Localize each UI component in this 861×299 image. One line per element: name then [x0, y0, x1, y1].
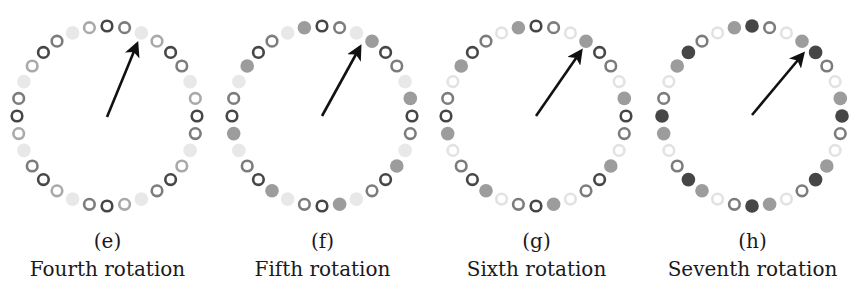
marker-faint-ring [496, 28, 507, 39]
marker-light-fill [17, 144, 31, 158]
marker-faint-ring [565, 194, 576, 205]
marker-dark-ring [467, 47, 478, 58]
marker-dark-fill [745, 199, 759, 213]
marker-dark-ring [380, 174, 391, 185]
marker-mid-fill [728, 21, 742, 35]
marker-light-fill [350, 192, 364, 206]
marker-dark-ring [594, 47, 605, 58]
marker-light-fill [232, 144, 246, 158]
marker-dark-ring [227, 111, 238, 122]
marker-mid-fill [333, 198, 347, 212]
marker-dark-ring [407, 111, 418, 122]
marker-faint-ring [614, 76, 625, 87]
marker-mid-ring [729, 199, 740, 210]
marker-light-fill [398, 75, 412, 89]
marker-light-fill [398, 144, 412, 158]
panel-g: (g) Sixth rotation [429, 0, 644, 299]
ring-diagram-h [645, 0, 860, 230]
marker-light-fill [183, 75, 197, 89]
marker-dark-ring [531, 201, 542, 212]
marker-mid-ring [177, 61, 188, 72]
marker-mid-ring [797, 186, 808, 197]
marker-faint-ring [614, 145, 625, 156]
ring-diagram-e [0, 0, 215, 230]
marker-light-fill [66, 26, 80, 40]
marker-faint-ring [830, 76, 841, 87]
marker-mid-ring [267, 36, 278, 47]
marker-light-fill [17, 75, 31, 89]
marker-faint-ring [781, 28, 792, 39]
marker-dark-ring [12, 111, 23, 122]
marker-mid-ring [672, 161, 683, 172]
marker-light-fill [281, 192, 295, 206]
marker-mid-fill [670, 59, 684, 73]
marker-mid-ring [152, 186, 163, 197]
marker-dark-ring [317, 21, 328, 32]
arrow-icon [752, 54, 803, 115]
marker-dark-ring [253, 174, 264, 185]
marker-mid-fill [795, 34, 809, 48]
marker-light-ring [84, 22, 95, 33]
marker-light-ring [152, 36, 163, 47]
marker-mid-fill [454, 59, 468, 73]
marker-mid-fill [763, 198, 777, 212]
marker-dark-ring [594, 174, 605, 185]
marker-light-ring [190, 93, 201, 104]
arrow-icon [536, 51, 581, 116]
marker-dark-fill [682, 46, 696, 60]
marker-light-ring [13, 128, 24, 139]
marker-dark-ring [102, 201, 113, 212]
marker-mid-ring [367, 186, 378, 197]
marker-mid-ring [190, 128, 201, 139]
marker-mid-fill [820, 159, 834, 173]
marker-mid-fill [265, 184, 279, 198]
marker-faint-ring [830, 145, 841, 156]
marker-dark-ring [165, 47, 176, 58]
marker-light-fill [350, 26, 364, 40]
marker-light-fill [281, 26, 295, 40]
marker-mid-ring [581, 186, 592, 197]
marker-faint-ring [448, 145, 459, 156]
marker-dark-fill [835, 109, 849, 123]
marker-faint-ring [664, 76, 675, 87]
marker-light-fill [66, 192, 80, 206]
panel-f: (f) Fifth rotation [215, 0, 430, 299]
marker-dark-ring [192, 111, 203, 122]
arrow-icon [107, 44, 137, 117]
marker-mid-fill [479, 184, 493, 198]
ring-diagram-g [429, 0, 644, 230]
caption-g: Sixth rotation [429, 257, 644, 281]
marker-dark-ring [380, 47, 391, 58]
marker-dark-ring [317, 201, 328, 212]
marker-mid-fill [227, 127, 241, 141]
marker-mid-fill [604, 159, 618, 173]
marker-light-fill [232, 75, 246, 89]
marker-mid-ring [52, 36, 63, 47]
marker-mid-ring [392, 61, 403, 72]
marker-mid-fill [404, 92, 418, 106]
marker-mid-fill [618, 92, 632, 106]
marker-faint-ring [565, 28, 576, 39]
marker-mid-ring [228, 93, 239, 104]
marker-dark-ring [441, 111, 452, 122]
marker-mid-ring [119, 22, 130, 33]
marker-dark-ring [38, 174, 49, 185]
panel-e: (e) Fourth rotation [0, 0, 215, 299]
ring-diagram-f [215, 0, 430, 230]
marker-mid-fill [298, 21, 312, 35]
marker-mid-ring [456, 161, 467, 172]
marker-mid-fill [441, 127, 455, 141]
marker-light-fill [135, 26, 149, 40]
marker-mid-ring [513, 199, 524, 210]
sublabel-g: (g) [429, 229, 644, 253]
marker-mid-ring [606, 61, 617, 72]
marker-mid-ring [334, 22, 345, 33]
sublabel-f: (f) [215, 229, 430, 253]
marker-mid-ring [658, 93, 669, 104]
marker-mid-ring [442, 93, 453, 104]
marker-mid-ring [697, 36, 708, 47]
marker-faint-ring [712, 28, 723, 39]
marker-mid-fill [240, 59, 254, 73]
caption-e: Fourth rotation [0, 257, 215, 281]
marker-dark-ring [253, 47, 264, 58]
